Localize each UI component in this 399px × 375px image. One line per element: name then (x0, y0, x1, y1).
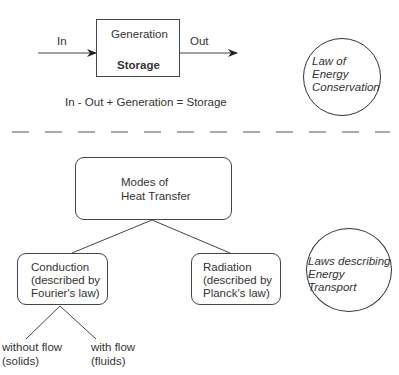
circle1-line1: Law of (312, 54, 346, 68)
modes-of-heat-transfer-box: Modes of Heat Transfer (75, 157, 232, 220)
storage-label: Storage (117, 58, 160, 72)
root-line1: Modes of (121, 175, 168, 189)
root-line2: Heat Transfer (121, 189, 191, 203)
with-flow-line1: with flow (91, 340, 135, 354)
radiation-line1: Radiation (203, 260, 252, 274)
generation-label: Generation (111, 27, 168, 41)
connector-root-conduction (72, 220, 152, 253)
laws-energy-transport-circle: Laws describing Energy Transport (306, 228, 392, 312)
circle2-line1: Laws describing (308, 254, 390, 268)
without-flow-line1: without flow (2, 340, 62, 354)
conduction-line3: Fourier's law) (31, 286, 100, 300)
in-label: In (57, 34, 67, 48)
connector-root-radiation (152, 220, 230, 253)
radiation-line2: (described by (203, 273, 272, 287)
conduction-line2: (described by (31, 273, 100, 287)
with-flow-line2: (fluids) (91, 354, 126, 368)
out-label: Out (190, 34, 209, 48)
without-flow-line2: (solids) (2, 354, 39, 368)
conservation-equation: In - Out + Generation = Storage (65, 95, 227, 109)
circle2-line3: Transport (308, 280, 356, 294)
radiation-line3: Planck's law) (203, 286, 270, 300)
law-of-energy-conservation-circle: Law of Energy Conservation (303, 38, 381, 116)
circle1-line3: Conservation (312, 80, 380, 94)
connector-conduction-without-flow (26, 306, 60, 339)
conduction-line1: Conduction (31, 260, 89, 274)
connector-conduction-with-flow (60, 306, 96, 339)
circle1-line2: Energy (312, 67, 348, 81)
radiation-box: Radiation (described by Planck's law) (191, 253, 281, 305)
storage-box: Generation Storage (96, 19, 180, 77)
conduction-box: Conduction (described by Fourier's law) (17, 253, 108, 305)
circle2-line2: Energy (308, 267, 344, 281)
